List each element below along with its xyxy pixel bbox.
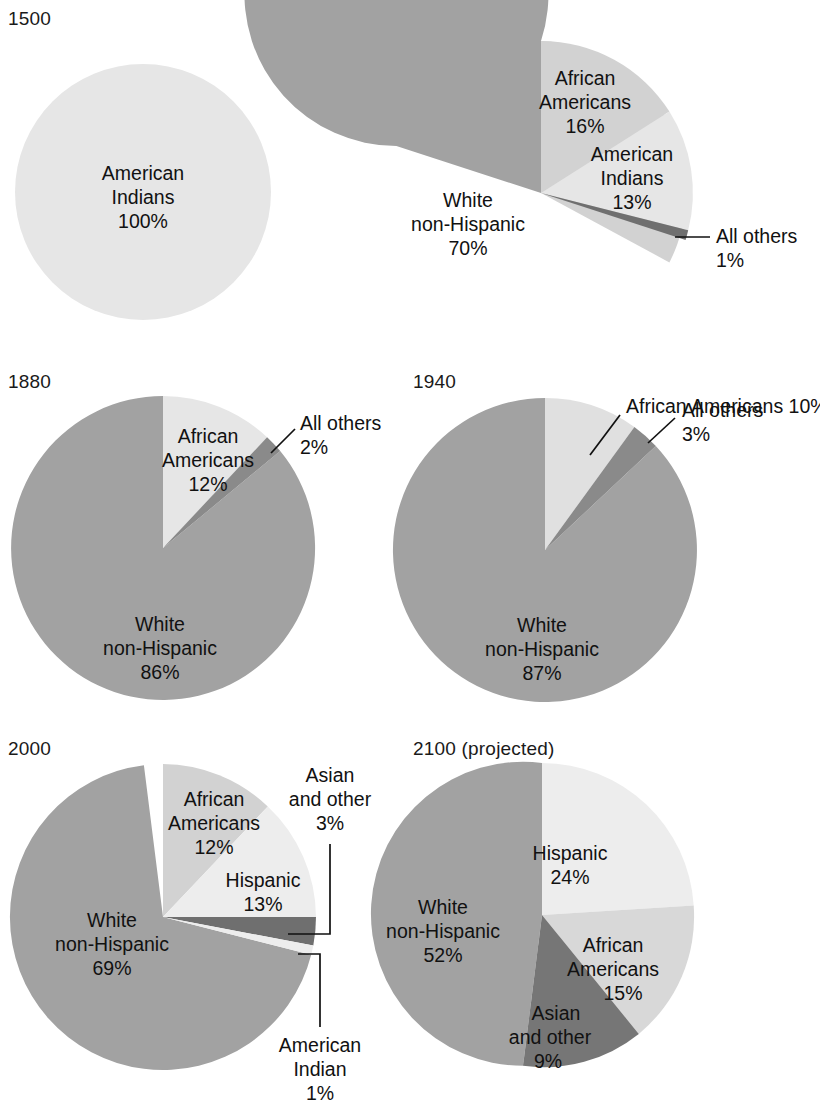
slice-label-all-others-line2: 1% [716,249,744,271]
slice-label-african-americans-line2: Americans [162,449,254,471]
slice-label-american-indian-line2: Indian [293,1058,346,1080]
slice-label-white-non-hispanic-line2: non-Hispanic [55,933,169,955]
slice-label-african-americans-pct: 15% [603,982,642,1004]
pie-slice-hispanic[interactable] [542,763,694,915]
leader-line-all-others [271,429,295,453]
pie-chart-1880: African Americans 12% All others 2% Whit… [0,395,420,705]
slice-label-white-non-hispanic-line2: non-Hispanic [411,213,525,235]
slice-label-american-indians-pct: 13% [612,191,651,213]
pie-chart-1940: African Americans 10% All others 3% Whit… [370,395,820,715]
slice-label-hispanic-line1: Hispanic [226,869,301,891]
slice-label-white-non-hispanic-line1: White [135,613,185,635]
slice-label-african-americans-line2: Americans [539,91,631,113]
slice-label-white-non-hispanic-line2: non-Hispanic [386,920,500,942]
slice-label-white-non-hispanic-line1: White [87,909,137,931]
slice-label-american-indians-line2: Indians [601,167,664,189]
slice-label-american-indians-line1: American [102,162,184,184]
slice-label-asian-and-other-line2: and other [509,1026,592,1048]
slice-label-all-others-line1: All others [682,399,764,421]
slice-label-white-non-hispanic-line1: White [418,896,468,918]
slice-label-white-non-hispanic-line2: non-Hispanic [103,637,217,659]
slice-label-white-non-hispanic-pct: 69% [92,957,131,979]
slice-label-african-americans-line1: African [583,934,644,956]
slice-label-white-non-hispanic-pct: 86% [140,661,179,683]
panel-year-2100: 2100 (projected) [413,738,555,760]
slice-label-all-others-line2: 2% [300,436,328,458]
slice-label-african-americans-line2: Americans [168,812,260,834]
slice-label-african-americans-pct: 16% [565,115,604,137]
leader-line-all-others [648,418,675,443]
slice-label-hispanic-pct: 13% [243,893,282,915]
slice-label-american-indians-line1: American [591,143,673,165]
panel-year-1500: 1500 [8,8,51,30]
slice-label-all-others-line1: All others [716,225,798,247]
pie-chart-2000: African Americans 12% Hispanic 13% Asian… [0,762,420,1106]
slice-label-white-non-hispanic-pct: 70% [448,237,487,259]
slice-label-african-americans-pct: 12% [188,473,227,495]
slice-label-hispanic-pct: 24% [550,866,589,888]
pie-chart-2100: Hispanic 24% African Americans 15% Asian… [370,762,820,1106]
slice-label-african-americans-line2: Americans [567,958,659,980]
slice-label-asian-and-other-line1: Asian [532,1002,581,1024]
slice-label-african-americans-line1: African [184,788,245,810]
slice-label-asian-and-other-pct: 9% [534,1050,562,1072]
slice-label-hispanic-line1: Hispanic [533,842,608,864]
slice-label-white-non-hispanic-line2: non-Hispanic [485,638,599,660]
slice-label-african-americans-line1: African [178,425,239,447]
slice-label-african-americans-pct: 12% [194,836,233,858]
slice-label-asian-and-other-pct: 3% [316,812,344,834]
slice-label-american-indians-line2: Indians [112,186,175,208]
slice-label-all-others-line2: 3% [682,423,710,445]
panel-year-2000: 2000 [8,738,51,760]
slice-label-white-non-hispanic-pct: 52% [423,944,462,966]
pie-chart-1790: African Americans 16% American Indians 1… [370,30,820,360]
slice-label-white-non-hispanic-line1: White [517,614,567,636]
slice-label-american-indian-line1: American [279,1034,361,1056]
slice-label-asian-and-other-line1: Asian [306,764,355,786]
slice-label-american-indians-pct: 100% [118,210,168,232]
slice-label-american-indian-pct: 1% [306,1082,334,1104]
panel-year-1880: 1880 [8,371,51,393]
slice-label-african-americans-line1: African [555,67,616,89]
slice-label-asian-and-other-line2: and other [289,788,372,810]
panel-year-1940: 1940 [413,371,456,393]
slice-label-white-non-hispanic-line1: White [443,189,493,211]
slice-label-white-non-hispanic-pct: 87% [522,662,561,684]
